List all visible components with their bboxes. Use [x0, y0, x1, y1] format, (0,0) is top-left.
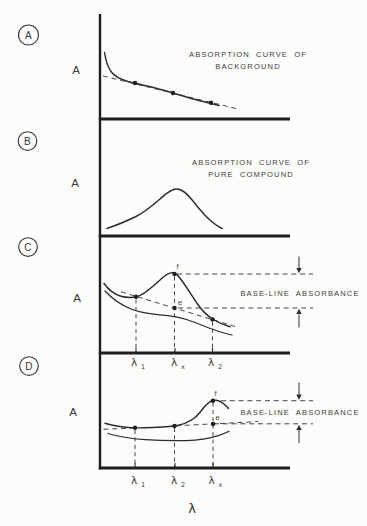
absorbance-figure: A A ABSORPTION CURVE OF BACKGROUND B A A…	[0, 0, 367, 526]
panel-a-point-3	[209, 101, 213, 105]
panel-c-label-e: e	[178, 298, 182, 307]
panel-c-ticklabel-2-sub: x	[181, 363, 185, 371]
panel-d: D A f e BASE-LINE ABSORBANCE λ 1	[20, 357, 360, 489]
panel-d-ticklabel-3-base: λ	[208, 474, 214, 486]
pure-compound-absorption-curve	[107, 189, 222, 229]
panel-b-badge-letter: B	[24, 136, 31, 147]
panel-b-y-axis-label: A	[71, 177, 79, 189]
panel-c-ticklabel-3-base: λ	[208, 356, 214, 368]
panel-d-y-axis-label: A	[69, 406, 77, 418]
panel-c-point-f	[172, 272, 176, 276]
panel-a-y-axis-label: A	[72, 64, 80, 76]
panel-d-ticklabel-2-sub: 2	[181, 481, 185, 489]
panel-a-annotation-line1: ABSORPTION CURVE OF	[189, 50, 307, 59]
panel-d-badge-letter: D	[25, 361, 33, 372]
panel-d-label-e: e	[216, 413, 220, 422]
panel-d-annotation: BASE-LINE ABSORBANCE	[240, 408, 359, 417]
panel-d-sample-curve	[105, 400, 229, 428]
panel-d-ticklabel-1-sub: 1	[141, 481, 145, 489]
panel-c: C A f e BASE-LINE ABSORBANCE λ 1	[19, 238, 360, 371]
panel-d-ticklabel-2-base: λ	[171, 474, 177, 486]
panel-c-lower-arrowhead	[296, 309, 301, 314]
panel-a-point-1	[133, 81, 137, 85]
panel-c-point-e	[172, 306, 176, 310]
background-absorption-curve	[105, 53, 220, 106]
panel-c-y-axis-label: A	[73, 292, 81, 304]
panel-c-badge-letter: C	[24, 242, 32, 253]
panel-c-annotation: BASE-LINE ABSORBANCE	[240, 289, 359, 298]
panel-c-ticklabel-1-base: λ	[131, 356, 137, 368]
panel-d-label-f: f	[215, 389, 218, 398]
panel-c-label-f: f	[177, 262, 180, 271]
panel-c-upper-arrowhead	[296, 268, 301, 273]
panel-d-point-f	[211, 399, 215, 403]
panel-c-ticklabel-3-sub: 2	[218, 363, 222, 371]
panel-d-upper-arrowhead	[296, 395, 301, 401]
panel-d-ticklabel-3-sub: x	[219, 481, 223, 489]
panel-a-point-2	[171, 91, 175, 95]
panel-d-ticklabel-1-base: λ	[131, 474, 137, 486]
x-axis-label: λ	[188, 501, 196, 516]
panel-d-background-curve	[108, 431, 229, 440]
panel-d-lower-arrowhead	[296, 425, 301, 430]
panel-a: A A ABSORPTION CURVE OF BACKGROUND	[19, 25, 307, 119]
panel-a-badge-letter: A	[25, 30, 32, 41]
panel-c-lambda1-point	[134, 295, 138, 299]
panel-c-lambda2-point	[210, 317, 214, 321]
panel-c-ticklabel-1-sub: 1	[141, 363, 145, 371]
panel-d-lambda2-point	[172, 424, 176, 428]
panel-b-annotation-line1: ABSORPTION CURVE OF	[192, 158, 310, 167]
panel-d-point-e	[211, 422, 215, 426]
panel-b-annotation-line2: PURE COMPOUND	[208, 170, 294, 179]
panel-a-annotation-line2: BACKGROUND	[215, 62, 280, 71]
panel-d-lambda1-point	[133, 426, 137, 430]
panel-b: B A ABSORPTION CURVE OF PURE COMPOUND	[18, 132, 310, 236]
absorbance-diagram: A A ABSORPTION CURVE OF BACKGROUND B A A…	[0, 0, 367, 526]
panel-c-ticklabel-2-base: λ	[171, 356, 177, 368]
